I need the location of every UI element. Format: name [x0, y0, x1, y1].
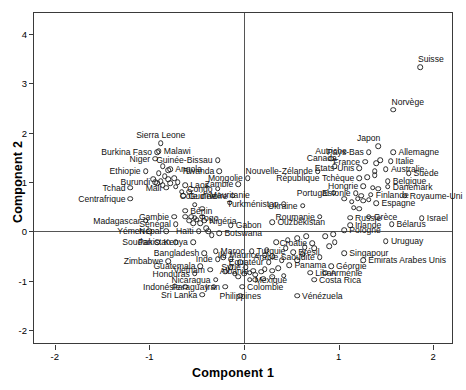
- data-point: [262, 266, 268, 272]
- y-tick-label: -2: [19, 325, 27, 336]
- data-point: [200, 292, 206, 298]
- point-label: Soudan: [122, 238, 152, 247]
- point-label: Sénégal: [139, 220, 171, 229]
- point-label: Pologne: [349, 226, 381, 235]
- point-label: Uruguay: [391, 237, 423, 246]
- point-label: Syrie: [221, 262, 241, 271]
- point-label: Turkménistan: [227, 200, 279, 209]
- data-point: [173, 184, 179, 190]
- data-point: [166, 167, 172, 173]
- data-point: [417, 65, 423, 71]
- point-label: Etats-Unis: [315, 164, 355, 173]
- point-label: Royaume-Uni: [410, 191, 463, 200]
- data-point: [326, 243, 332, 249]
- point-label: Ouzbékistan: [277, 218, 325, 227]
- data-point: [171, 214, 177, 220]
- data-point: [164, 229, 170, 235]
- data-point: [128, 196, 134, 202]
- point-label: Sri Lanka: [161, 290, 197, 299]
- data-point: [143, 168, 149, 174]
- data-point: [330, 232, 336, 238]
- y-tick-label: 4: [22, 28, 27, 39]
- data-point: [300, 203, 306, 209]
- point-label: Turquie: [257, 247, 286, 256]
- point-label: Botswana: [224, 229, 262, 238]
- point-label: Costa Rica: [319, 275, 361, 284]
- y-tick-label: -1: [19, 275, 27, 286]
- point-label: Gabon: [236, 221, 262, 230]
- data-point: [156, 149, 162, 155]
- data-point: [209, 233, 215, 239]
- data-point: [377, 157, 383, 163]
- y-tick: [29, 281, 34, 282]
- y-tick-label: 3: [22, 78, 27, 89]
- data-point: [332, 239, 338, 245]
- data-point: [391, 150, 397, 156]
- data-point: [215, 157, 221, 163]
- plot-area: -2-1012 -2-101234 SuisseNorvègeJaponPays…: [33, 12, 453, 344]
- point-label: Burkina Faso: [101, 148, 152, 157]
- point-label: Maroc: [221, 247, 245, 256]
- data-point: [341, 250, 347, 256]
- point-label: Malawi: [164, 147, 191, 156]
- point-label: Israel: [427, 214, 448, 223]
- data-point: [245, 175, 251, 181]
- data-point: [183, 208, 189, 214]
- y-tick: [29, 182, 34, 183]
- x-tick: [339, 345, 340, 350]
- point-label: Philippines: [219, 291, 261, 300]
- y-tick: [29, 231, 34, 232]
- data-point: [366, 150, 372, 156]
- data-point: [362, 159, 368, 165]
- point-label: Canada: [307, 154, 337, 163]
- data-point: [383, 166, 389, 172]
- data-point: [372, 168, 378, 174]
- x-axis-title: Component 1: [0, 366, 466, 380]
- data-point: [341, 228, 347, 234]
- point-label: Emirats Arabes Unis: [368, 256, 446, 265]
- y-tick: [29, 83, 34, 84]
- y-tick: [29, 133, 34, 134]
- point-label: Estonie: [322, 189, 351, 198]
- data-point: [270, 220, 276, 226]
- data-point: [207, 267, 213, 273]
- data-point: [374, 200, 380, 206]
- data-point: [366, 197, 372, 203]
- point-label: Sierra Leone: [136, 131, 185, 140]
- point-label: Vénézuela: [302, 291, 343, 300]
- x-tick: [433, 345, 434, 350]
- x-tick: [149, 345, 150, 350]
- data-point: [167, 180, 173, 186]
- data-point: [239, 284, 245, 290]
- data-point: [311, 277, 317, 283]
- point-label: Angola: [175, 165, 202, 174]
- point-label: Zimbabwe: [124, 257, 164, 266]
- data-point: [389, 222, 395, 228]
- point-label: Ethiopie: [110, 167, 141, 176]
- point-label: Gambie: [139, 212, 169, 221]
- x-tick-label: -2: [51, 351, 59, 362]
- data-point: [347, 215, 353, 221]
- data-point: [349, 199, 355, 205]
- point-label: Japon: [357, 134, 380, 143]
- scatter-plot-figure: -2-1012 -2-101234 SuisseNorvègeJaponPays…: [0, 0, 466, 390]
- point-label: Suisse: [418, 55, 444, 64]
- data-point: [307, 270, 313, 276]
- data-point: [222, 284, 228, 290]
- data-point: [273, 239, 279, 245]
- data-point: [357, 206, 363, 212]
- data-point: [359, 193, 365, 199]
- point-label: Bénin: [190, 206, 212, 215]
- data-point: [190, 239, 196, 245]
- point-label: Bangladesh: [154, 249, 199, 258]
- x-tick-label: 2: [431, 351, 436, 362]
- x-tick-label: -1: [145, 351, 153, 362]
- point-label: Bélarus: [397, 220, 426, 229]
- point-label: Centrafrique: [78, 194, 125, 203]
- data-point: [360, 183, 366, 189]
- point-label: Burundi: [120, 177, 150, 186]
- point-label: Haïti: [176, 227, 194, 236]
- data-point: [376, 144, 382, 150]
- point-label: Norvège: [391, 97, 423, 106]
- x-tick: [244, 345, 245, 350]
